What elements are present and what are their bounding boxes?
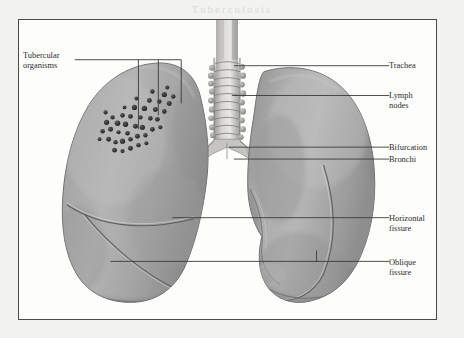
bleed-through-title-top: Tuberculosis	[0, 0, 464, 18]
lung-illustration	[19, 20, 436, 319]
label-trachea: Trachea	[389, 61, 416, 71]
label-tubercular-organisms: Tubercular organisms	[23, 51, 59, 71]
label-lymph-nodes: Lymph nodes	[389, 91, 413, 111]
label-oblique-fissure: Oblique fissure	[389, 258, 416, 278]
figure-frame: Tubercular organisms Trachea Lymph nodes…	[18, 19, 437, 320]
trachea-group	[214, 20, 240, 141]
label-horizontal-fissure: Horizontal fissure	[389, 214, 425, 234]
label-bronchi: Bronchi	[389, 155, 416, 165]
label-bifurcation: Bifurcation	[389, 143, 427, 153]
